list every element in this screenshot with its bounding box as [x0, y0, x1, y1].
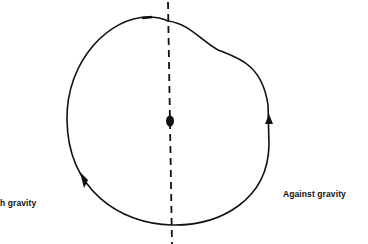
center-dot-icon [166, 116, 174, 127]
top-mark [142, 17, 152, 18]
against-gravity-label: Against gravity [283, 189, 346, 199]
down-arrow-icon [80, 172, 88, 188]
with-gravity-label: th gravity [0, 198, 36, 208]
gravity-loop-diagram [0, 0, 368, 244]
up-arrow-icon [265, 114, 273, 124]
